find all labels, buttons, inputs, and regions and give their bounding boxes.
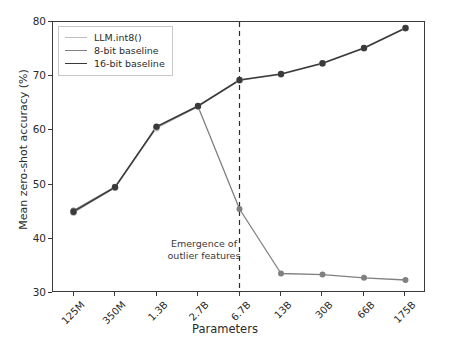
- data-point-8-bit-baseline-30B: [319, 272, 325, 278]
- x-axis-label: Parameters: [0, 322, 450, 336]
- x-axis-tick-mark-2.7B: [197, 292, 198, 296]
- x-axis-tick-mark-13B: [280, 292, 281, 296]
- data-point-16-bit-baseline-2.7B: [195, 103, 201, 109]
- data-point-16-bit-baseline-30B: [319, 60, 325, 66]
- x-axis-tick-mark-6.7B: [239, 292, 240, 296]
- x-axis-tick-mark-30B: [321, 292, 322, 296]
- data-point-16-bit-baseline-125M: [70, 209, 76, 215]
- y-axis-label: Mean zero-shot accuracy (%): [17, 35, 30, 265]
- data-point-8-bit-baseline-175B: [402, 277, 408, 283]
- x-axis-tick-mark-125M: [73, 292, 74, 296]
- y-axis-tick-mark-60: [48, 129, 52, 130]
- chart-figure: 304050607080 Mean zero-shot accuracy (%)…: [0, 0, 450, 342]
- x-axis-tick-mark-350M: [114, 292, 115, 296]
- data-point-16-bit-baseline-350M: [112, 184, 118, 190]
- y-axis-tick-80: 80: [16, 16, 46, 27]
- data-point-8-bit-baseline-6.7B: [237, 206, 243, 212]
- legend-swatch-icon: [65, 63, 87, 64]
- y-axis-tick-30: 30: [16, 287, 46, 298]
- y-axis-tick-mark-30: [48, 292, 52, 293]
- y-axis-tick-mark-50: [48, 184, 52, 185]
- chart-legend: LLM.int8()8-bit baseline16-bit baseline: [58, 26, 173, 76]
- y-axis-tick-mark-40: [48, 238, 52, 239]
- data-point-16-bit-baseline-1.3B: [153, 123, 159, 129]
- legend-label: 16-bit baseline: [94, 58, 165, 69]
- x-axis-tick-mark-175B: [404, 292, 405, 296]
- x-axis-tick-mark-1.3B: [156, 292, 157, 296]
- y-axis-tick-mark-70: [48, 75, 52, 76]
- data-point-8-bit-baseline-13B: [278, 270, 284, 276]
- annotation-line-1: Emergence of: [150, 238, 258, 250]
- data-point-16-bit-baseline-6.7B: [236, 77, 242, 83]
- legend-item-llm-int8-: LLM.int8(): [65, 31, 165, 44]
- legend-item-8-bit-baseline: 8-bit baseline: [65, 44, 165, 57]
- legend-item-16-bit-baseline: 16-bit baseline: [65, 57, 165, 70]
- annotation-line-2: outlier features: [150, 250, 258, 262]
- x-axis-tick-mark-66B: [363, 292, 364, 296]
- data-point-8-bit-baseline-66B: [361, 275, 367, 281]
- data-point-16-bit-baseline-13B: [278, 71, 284, 77]
- data-point-16-bit-baseline-66B: [361, 45, 367, 51]
- y-axis-tick-mark-80: [48, 21, 52, 22]
- legend-swatch-icon: [65, 37, 87, 38]
- legend-swatch-icon: [65, 50, 87, 51]
- legend-label: LLM.int8(): [94, 32, 142, 43]
- legend-label: 8-bit baseline: [94, 45, 159, 56]
- annotation-emergence-of-outlier-features: Emergence of outlier features: [150, 238, 258, 262]
- data-point-16-bit-baseline-175B: [402, 25, 408, 31]
